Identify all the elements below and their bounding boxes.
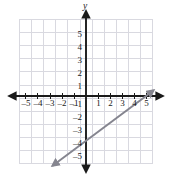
x-tick-label-2: 2: [106, 99, 115, 108]
y-tick-label--5: –5: [67, 152, 82, 161]
x-tick-label-3: 3: [118, 99, 127, 108]
tick-labels-layer: y –5 –4 –3 –2 –1 1 2 3 4 5 5 4 3 2 1 –1 …: [0, 0, 172, 179]
x-tick-label-4: 4: [130, 99, 139, 108]
x-tick-label-5: 5: [142, 99, 151, 108]
y-tick-label--1: –1: [67, 100, 82, 109]
y-tick-label--2: –2: [67, 113, 82, 122]
y-tick-label-3: 3: [72, 56, 82, 65]
y-axis-label: y: [83, 2, 87, 11]
y-tick-label-5: 5: [72, 30, 82, 39]
x-tick-label-1: 1: [94, 99, 103, 108]
y-tick-label--4: –4: [67, 139, 82, 148]
y-tick-label--3: –3: [67, 126, 82, 135]
y-tick-label-4: 4: [72, 43, 82, 52]
y-tick-label-2: 2: [72, 69, 82, 78]
coordinate-plane-figure: y –5 –4 –3 –2 –1 1 2 3 4 5 5 4 3 2 1 –1 …: [0, 0, 172, 179]
y-tick-label-1: 1: [72, 82, 82, 91]
